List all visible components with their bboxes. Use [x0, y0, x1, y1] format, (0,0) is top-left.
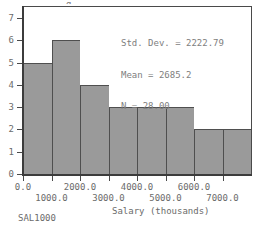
- y-axis-line: [22, 6, 24, 175]
- x-axis-tick-label: 7000.0: [206, 194, 239, 203]
- x-axis-tick-label: 1000.0: [35, 194, 68, 203]
- y-axis-tick: [17, 18, 22, 19]
- x-axis-tick: [166, 176, 167, 181]
- y-axis-tick-label: 2: [2, 125, 14, 134]
- y-axis-tick-label: 1: [2, 148, 14, 157]
- case-label: SAL1000: [18, 213, 56, 223]
- histogram-bar: [52, 40, 81, 174]
- y-axis-tick: [17, 152, 22, 153]
- x-axis-tick-label: 5000.0: [149, 194, 182, 203]
- x-axis-tick: [52, 176, 53, 181]
- histogram-figure: g 01234567 0.02000.04000.06000.01000.030…: [0, 0, 258, 226]
- x-axis-tick-label: 3000.0: [92, 194, 125, 203]
- y-axis-tick: [17, 129, 22, 130]
- y-axis-tick-label: 7: [2, 14, 14, 23]
- y-axis-tick-label: 3: [2, 103, 14, 112]
- x-axis-tick: [80, 176, 81, 181]
- x-axis-tick: [23, 176, 24, 181]
- x-axis-title: Salary (thousands): [112, 206, 210, 216]
- y-axis-tick: [17, 63, 22, 64]
- x-axis-tick: [194, 176, 195, 181]
- mean-text: Mean = 2685.2: [121, 70, 224, 81]
- x-axis-tick: [137, 176, 138, 181]
- x-axis-tick: [109, 176, 110, 181]
- std-dev-text: Std. Dev. = 2222.79: [121, 38, 224, 49]
- y-axis-tick-label: 5: [2, 59, 14, 68]
- histogram-bar: [194, 129, 223, 174]
- y-axis-tick-label: 0: [2, 170, 14, 179]
- y-axis-tick: [17, 40, 22, 41]
- statistics-annotation: Std. Dev. = 2222.79 Mean = 2685.2 N = 28…: [121, 17, 224, 133]
- x-axis-tick-label: 2000.0: [64, 183, 97, 192]
- histogram-bar: [80, 85, 109, 174]
- histogram-bar: [23, 63, 52, 174]
- n-text: N = 28.00: [121, 101, 224, 112]
- chart-title-cropped: g: [66, 0, 78, 4]
- histogram-bar: [223, 129, 252, 174]
- x-axis-tick-label: 6000.0: [178, 183, 211, 192]
- y-axis-tick: [17, 107, 22, 108]
- y-axis-tick-label: 4: [2, 81, 14, 90]
- x-axis-tick: [223, 176, 224, 181]
- x-axis-tick-label: 4000.0: [121, 183, 154, 192]
- y-axis-tick-label: 6: [2, 36, 14, 45]
- x-axis-tick-label: 0.0: [15, 183, 31, 192]
- y-axis-tick: [17, 85, 22, 86]
